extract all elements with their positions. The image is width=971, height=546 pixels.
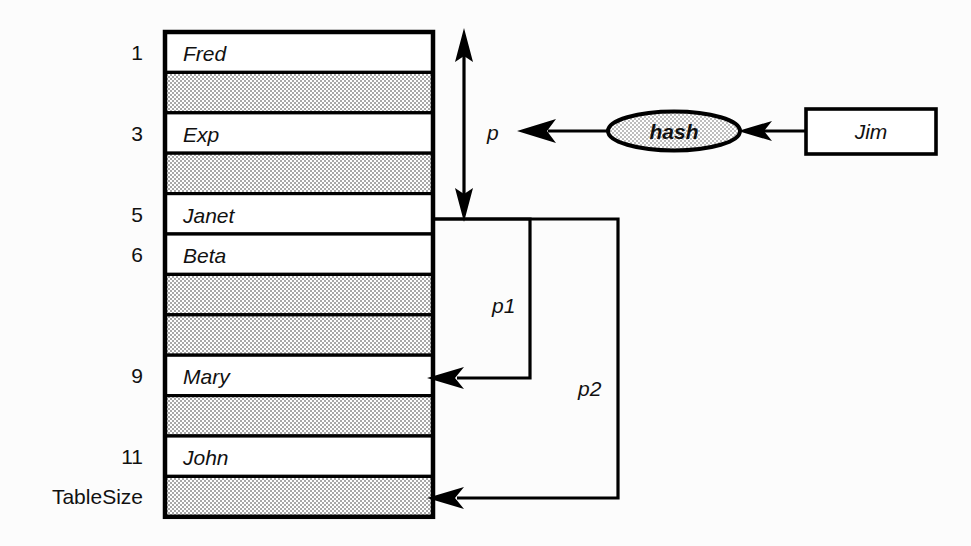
hash-to-p-arrow xyxy=(517,119,608,143)
table-row xyxy=(165,396,433,436)
table-cell-value: John xyxy=(183,447,229,468)
table-cell-value: Beta xyxy=(183,245,226,266)
row-index-label: 6 xyxy=(0,244,143,265)
row-index-label: 11 xyxy=(0,446,143,467)
jim-to-hash-arrow xyxy=(738,121,806,141)
row-index-label: TableSize xyxy=(0,486,143,507)
hash-node-label: hash xyxy=(608,121,740,142)
jim-box-label: Jim xyxy=(806,121,936,142)
row-index-label: 9 xyxy=(0,365,143,386)
table-row xyxy=(165,315,433,355)
row-index-label: 1 xyxy=(0,42,143,63)
diagram-canvas: 1356911TableSize FredExpJanetBetaMaryJoh… xyxy=(0,0,971,546)
table-row xyxy=(165,476,433,516)
hash-table-cells xyxy=(165,32,433,517)
table-row xyxy=(165,274,433,314)
row-index-label: 5 xyxy=(0,204,143,225)
p-range-double-arrow xyxy=(455,28,473,222)
table-cell-value: Exp xyxy=(183,124,219,145)
table-cell-value: Fred xyxy=(183,43,226,64)
p2-pointer-path xyxy=(427,219,618,509)
pointer-label-p2: p2 xyxy=(578,378,601,399)
pointer-label-p: p xyxy=(487,122,499,143)
pointer-label-p1: p1 xyxy=(492,295,515,316)
hash-table-diagram xyxy=(0,0,971,546)
table-cell-value: Janet xyxy=(183,205,234,226)
table-row xyxy=(165,72,433,112)
row-index-label: 3 xyxy=(0,123,143,144)
table-cell-value: Mary xyxy=(183,366,230,387)
table-row xyxy=(165,153,433,193)
